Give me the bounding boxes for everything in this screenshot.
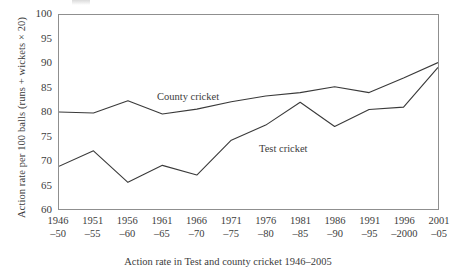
series-label-county-cricket: County cricket (157, 91, 219, 102)
y-tick-label: 100 (22, 7, 52, 19)
plot-svg (59, 15, 438, 209)
x-axis-tick-labels: 1946–501951–551956–601961–651966–701971–… (58, 214, 439, 248)
y-tick-label: 70 (22, 154, 52, 166)
y-tick-label: 95 (22, 32, 52, 44)
plot-area: County cricket Test cricket (58, 14, 439, 210)
series-label-test-cricket: Test cricket (259, 143, 308, 154)
y-tick-label: 80 (22, 105, 52, 117)
y-tick-label: 85 (22, 81, 52, 93)
y-tick-label: 65 (22, 179, 52, 191)
scan-artifact (72, 0, 90, 5)
series-line-county-cricket (59, 63, 438, 114)
x-tick-label-end: –05 (415, 227, 456, 240)
series-line-test-cricket (59, 67, 438, 182)
figure-caption: Action rate in Test and county cricket 1… (0, 256, 456, 267)
x-tick-label-start: 2001 (415, 214, 456, 227)
x-tick-label: 2001–05 (415, 214, 456, 240)
chart-figure: Action rate per 100 balls (runs + wicket… (0, 0, 456, 279)
y-tick-label: 90 (22, 56, 52, 68)
y-tick-label: 75 (22, 130, 52, 142)
